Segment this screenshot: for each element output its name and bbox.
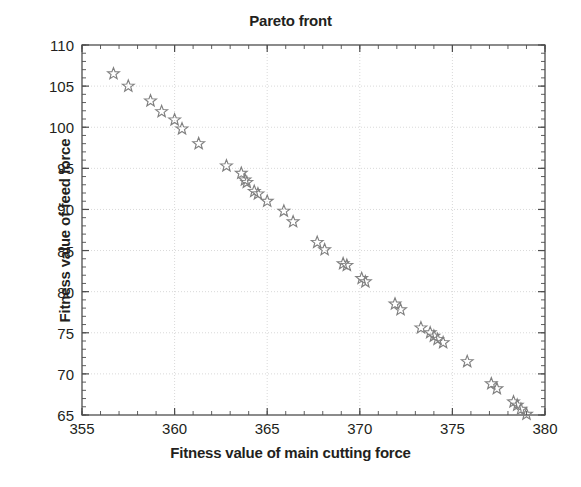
minor-tick-marks: [82, 45, 545, 415]
data-point-marker: [491, 382, 503, 393]
chart-figure: Pareto front Fitness value of feed force…: [0, 0, 581, 487]
data-point-marker: [278, 205, 290, 216]
scatter-plot-area: [0, 0, 581, 487]
data-point-marker: [221, 160, 233, 171]
data-point-marker: [395, 304, 407, 315]
data-points: [108, 68, 533, 420]
data-point-marker: [193, 137, 205, 148]
gridlines: [82, 45, 545, 415]
major-tick-marks: [82, 45, 545, 415]
plot-frame: [82, 45, 545, 415]
data-point-marker: [108, 68, 120, 79]
data-point-marker: [145, 95, 157, 106]
data-point-marker: [156, 105, 168, 116]
data-point-marker: [311, 236, 323, 247]
data-point-marker: [461, 355, 473, 366]
data-point-marker: [122, 80, 134, 91]
data-point-marker: [287, 216, 299, 227]
data-point-marker: [359, 276, 371, 287]
